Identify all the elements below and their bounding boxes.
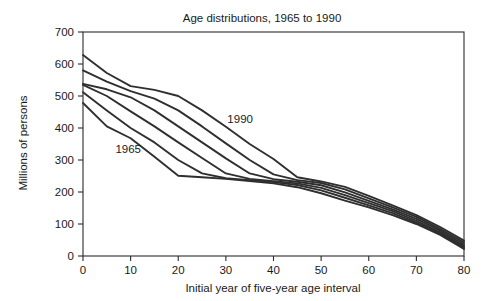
chart-title: Age distributions, 1965 to 1990 (183, 12, 342, 24)
y-tick-label: 200 (55, 186, 74, 198)
x-axis-ticks: 01020304050607080 (80, 256, 471, 276)
x-tick-label: 20 (172, 264, 185, 276)
series-line-1965 (83, 103, 464, 249)
y-tick-label: 300 (55, 154, 74, 166)
y-tick-label: 500 (55, 90, 74, 102)
y-tick-label: 100 (55, 218, 74, 230)
y-axis-title: Millions of persons (17, 95, 29, 190)
y-axis-ticks: 0100200300400500600700 (55, 26, 83, 262)
x-tick-label: 10 (124, 264, 137, 276)
x-tick-label: 50 (315, 264, 328, 276)
x-tick-label: 30 (219, 264, 232, 276)
series-line-1970 (83, 92, 464, 248)
y-tick-label: 600 (55, 58, 74, 70)
x-tick-label: 40 (267, 264, 280, 276)
x-axis-title: Initial year of five-year age interval (185, 282, 360, 294)
annotation-1965: 1965 (115, 143, 141, 155)
x-tick-label: 0 (80, 264, 86, 276)
chart-container: 01020304050607080 0100200300400500600700… (0, 0, 485, 301)
series-line-1975 (83, 85, 464, 246)
y-tick-label: 700 (55, 26, 74, 38)
x-tick-label: 80 (458, 264, 471, 276)
y-tick-label: 0 (68, 250, 74, 262)
annotation-1990: 1990 (227, 113, 253, 125)
x-tick-label: 70 (410, 264, 423, 276)
y-tick-label: 400 (55, 122, 74, 134)
age-distribution-line-chart: 01020304050607080 0100200300400500600700… (0, 0, 485, 301)
x-tick-label: 60 (362, 264, 375, 276)
